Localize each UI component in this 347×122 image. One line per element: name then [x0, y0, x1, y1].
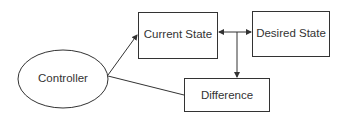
edge-controller-difference	[108, 76, 184, 95]
edge-controller-current-state	[108, 35, 137, 75]
controller-node-label: Controller	[18, 64, 108, 92]
diagram-canvas: Controller Current State Desired State D…	[0, 0, 347, 122]
difference-node-label: Difference	[184, 81, 270, 109]
current-state-node-label: Current State	[138, 20, 218, 48]
desired-state-node-label: Desired State	[252, 19, 330, 47]
